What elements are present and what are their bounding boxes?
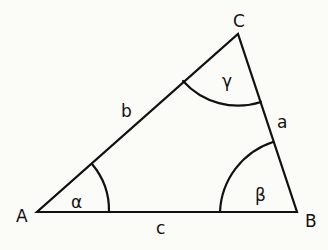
- angle-arc-alpha: [92, 164, 109, 212]
- vertex-label-c: C: [233, 11, 245, 31]
- side-label-c: c: [156, 218, 165, 238]
- side-label-b: b: [121, 101, 132, 121]
- triangle-diagram: A B C a b c α β γ: [0, 0, 328, 250]
- side-label-a: a: [277, 112, 287, 132]
- angle-label-gamma: γ: [222, 71, 232, 91]
- vertex-label-b: B: [305, 211, 317, 231]
- angle-label-alpha: α: [71, 192, 82, 212]
- vertex-label-a: A: [16, 206, 28, 226]
- angle-label-beta: β: [255, 185, 266, 205]
